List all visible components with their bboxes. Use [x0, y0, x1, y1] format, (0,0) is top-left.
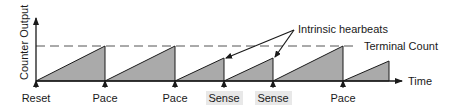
ramp-2 — [105, 46, 175, 81]
intrinsic-heartbeats-label: Intrinsic hearbeats — [298, 23, 388, 35]
event-label-sense: Sense — [208, 92, 239, 104]
ramp-3 — [175, 58, 224, 81]
ramp-6 — [343, 61, 389, 81]
ramp-1 — [36, 46, 105, 81]
ramp-4 — [224, 58, 273, 81]
event-ticks — [36, 81, 343, 88]
pacemaker-counter-diagram: Counter Output Time Terminal Count Intri… — [0, 0, 453, 107]
event-label-pace: Pace — [92, 92, 117, 104]
event-label-pace: Pace — [162, 92, 187, 104]
ramps — [36, 46, 389, 81]
event-label-sense: Sense — [257, 92, 288, 104]
terminal-count-label: Terminal Count — [364, 40, 438, 52]
event-label-reset: Reset — [22, 92, 51, 104]
x-axis-label: Time — [408, 75, 432, 87]
y-axis-label: Counter Output — [18, 5, 30, 80]
event-label-pace: Pace — [330, 92, 355, 104]
intrinsic-annotation-arrows — [226, 30, 294, 58]
ramp-5 — [273, 46, 343, 81]
